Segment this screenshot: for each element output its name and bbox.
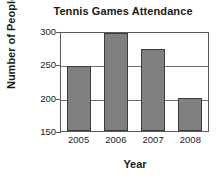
x-axis-tick-group: 2005 2006 2007 2008 — [60, 134, 209, 145]
plot-area — [60, 32, 209, 132]
bar-2007 — [141, 49, 165, 131]
bar-2005 — [67, 66, 91, 131]
y-tick-label: 300 — [30, 27, 56, 37]
x-tick-label-2007: 2007 — [135, 134, 172, 145]
x-tick-label-2005: 2005 — [60, 134, 97, 145]
x-tick-label-2006: 2006 — [97, 134, 134, 145]
y-tick-label: 150 — [30, 127, 56, 137]
y-axis-label: Number of People — [5, 0, 17, 97]
bar-chart-figure: Tennis Games Attendance Number of People… — [0, 0, 222, 178]
y-tick-mark — [56, 132, 61, 133]
bar-2008 — [178, 98, 202, 131]
bar-slot — [98, 33, 135, 131]
bar-slot — [61, 33, 98, 131]
y-axis-tick-group: 300 250 200 150 — [28, 32, 56, 132]
bars-layer — [61, 33, 208, 131]
bar-slot — [135, 33, 172, 131]
bar-slot — [171, 33, 208, 131]
chart-title: Tennis Games Attendance — [28, 5, 218, 17]
x-tick-label-2008: 2008 — [172, 134, 209, 145]
bar-2006 — [104, 33, 128, 131]
y-tick-label: 200 — [30, 94, 56, 104]
x-axis-label: Year — [60, 158, 210, 170]
y-tick-label: 250 — [30, 60, 56, 70]
